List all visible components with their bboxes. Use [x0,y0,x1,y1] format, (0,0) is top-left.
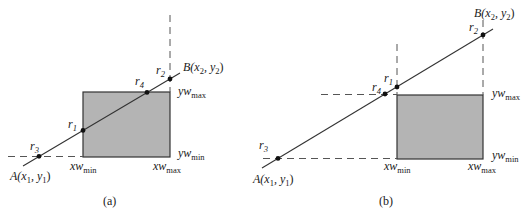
label-xwmax-a: xwmax [152,159,182,175]
point-r4-b [383,92,388,97]
caption-b: (b) [379,194,393,208]
point-r2-a [168,77,173,82]
label-r3-a: r3 [30,139,39,155]
label-r3-b: r3 [259,138,268,154]
label-ywmax-b: ywmax [491,86,521,102]
label-ywmax-a: ywmax [177,84,207,100]
label-xwmin-a: xwmin [69,159,97,175]
label-r4-a: r4 [135,74,145,90]
label-r4-b: r4 [372,80,382,96]
clip-window-a [83,92,170,157]
label-ywmin-a: ywmin [177,146,205,162]
label-endpoint-a-b: A(x1, y1) [252,172,294,188]
point-r4-a [145,90,150,95]
clip-window-b [397,95,483,159]
label-r2-b: r2 [469,20,479,36]
clipping-diagram: r3 r1 r4 r2 A(x1, y1) B(x2, y2) xwmin xw… [0,0,526,215]
label-r2-a: r2 [156,63,166,79]
label-endpoint-b-b: B(x2, y2) [474,6,515,22]
label-r1-a: r1 [68,117,77,133]
label-ywmin-b: ywmin [491,148,519,164]
point-r1-a [81,128,86,133]
panel-a: r3 r1 r4 r2 A(x1, y1) B(x2, y2) xwmin xw… [8,15,224,208]
point-r2-b [481,33,486,38]
point-r3-b [276,156,281,161]
point-r1-b [395,85,400,90]
label-endpoint-b-a: B(x2, y2) [183,60,224,76]
caption-a: (a) [103,194,116,208]
panel-b: r3 r4 r1 r2 A(x1, y1) B(x2, y2) xwmin xw… [252,6,521,208]
label-xwmin-b: xwmin [383,159,411,175]
label-endpoint-a-a: A(x1, y1) [9,169,51,185]
label-r1-b: r1 [384,71,393,87]
